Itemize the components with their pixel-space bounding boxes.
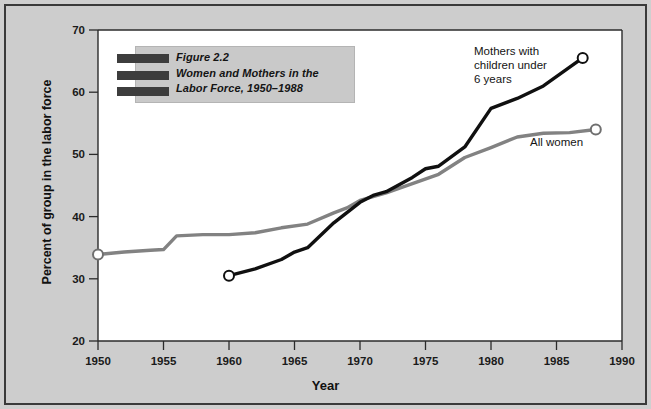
caption-bar-3 bbox=[117, 87, 169, 96]
endpoint-mothers-start bbox=[224, 271, 234, 281]
x-tick-label: 1960 bbox=[216, 355, 242, 367]
endpoint-mothers-end bbox=[578, 53, 588, 63]
x-axis-ticks bbox=[98, 341, 622, 350]
caption-line-2: Women and Mothers in the bbox=[176, 66, 356, 82]
x-tick-label: 1970 bbox=[347, 355, 373, 367]
y-tick-label: 40 bbox=[72, 211, 85, 223]
caption-decorative-bars bbox=[117, 54, 169, 96]
y-axis-title: Percent of group in the labor force bbox=[40, 72, 54, 292]
caption-bar-1 bbox=[117, 54, 169, 63]
y-tick-label: 60 bbox=[72, 86, 85, 98]
x-tick-label: 1985 bbox=[544, 355, 570, 367]
x-tick-label: 1980 bbox=[478, 355, 504, 367]
x-tick-label: 1950 bbox=[85, 355, 111, 367]
y-tick-label: 50 bbox=[72, 148, 85, 160]
y-axis-ticks bbox=[89, 30, 98, 341]
x-tick-label: 1990 bbox=[609, 355, 635, 367]
caption-bar-2 bbox=[117, 71, 169, 80]
caption-line-1: Figure 2.2 bbox=[176, 50, 356, 66]
endpoint-all-women-start bbox=[93, 250, 103, 260]
annotation-mothers: Mothers with children under 6 years bbox=[474, 44, 547, 86]
annotation-mothers-line-1: Mothers with bbox=[474, 44, 547, 58]
annotation-mothers-line-2: children under bbox=[474, 58, 547, 72]
annotation-all-women: All women bbox=[530, 136, 583, 148]
x-tick-label: 1965 bbox=[282, 355, 308, 367]
figure-container: 203040506070 195019551960196519701975198… bbox=[0, 0, 651, 409]
x-axis-tick-labels: 195019551960196519701975198019851990 bbox=[85, 355, 635, 367]
y-axis-tick-labels: 203040506070 bbox=[72, 24, 85, 347]
y-tick-label: 30 bbox=[72, 273, 85, 285]
y-tick-label: 70 bbox=[72, 24, 85, 36]
y-tick-label: 20 bbox=[72, 335, 85, 347]
x-tick-label: 1955 bbox=[151, 355, 177, 367]
caption-line-3: Labor Force, 1950–1988 bbox=[176, 81, 356, 97]
annotation-mothers-line-3: 6 years bbox=[474, 72, 547, 86]
x-tick-label: 1975 bbox=[413, 355, 439, 367]
x-axis-title: Year bbox=[0, 378, 651, 393]
endpoint-all-women-end bbox=[591, 125, 601, 135]
caption-text: Figure 2.2 Women and Mothers in the Labo… bbox=[176, 50, 356, 97]
